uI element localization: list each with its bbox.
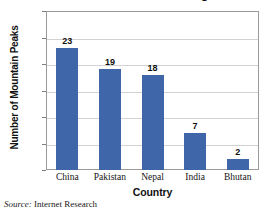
bar	[227, 159, 249, 170]
bar	[56, 48, 78, 170]
bar-series: 23191872	[46, 11, 259, 170]
source-label: Source:	[4, 199, 32, 209]
source-value: Internet Research	[34, 199, 97, 209]
bar-value-label: 19	[105, 57, 115, 67]
y-tick-mark	[42, 170, 46, 171]
bar	[184, 133, 206, 170]
x-axis-title: Country	[46, 186, 259, 198]
chart-title: Over 7000 Meters in Height	[30, 0, 262, 1]
bar-column: 23	[47, 11, 87, 170]
bar-value-label: 7	[193, 121, 198, 131]
bar-column: 2	[218, 11, 258, 170]
y-axis-title: Number of Mountain Peaks	[9, 6, 20, 170]
bar-column: 18	[133, 11, 173, 170]
bar-chart: Over 7000 Meters in Height Number of Mou…	[0, 0, 266, 213]
bar-value-label: 18	[147, 63, 157, 73]
bar	[142, 75, 164, 170]
bar-column: 7	[175, 11, 215, 170]
x-axis-ticks: ChinaPakistanNepalIndiaBhutan	[46, 172, 259, 186]
bar-value-label: 2	[235, 147, 240, 157]
x-tick-label: Bhutan	[212, 172, 264, 182]
bar	[99, 69, 121, 170]
bar-column: 19	[90, 11, 130, 170]
source-note: Source: Internet Research	[4, 199, 97, 209]
bar-value-label: 23	[62, 36, 72, 46]
